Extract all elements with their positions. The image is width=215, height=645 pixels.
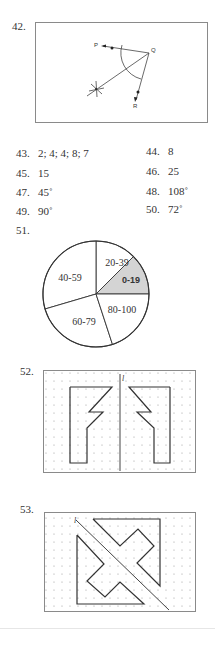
problem-42-number: 42. (12, 20, 26, 32)
page-edge (0, 628, 215, 629)
label-p: P (94, 42, 98, 48)
problem-42-figure: P Q R (35, 22, 208, 123)
answer-43: 43.2; 4; 4; 8; 7 (16, 147, 89, 159)
reflection-figure-53 (45, 513, 197, 613)
slice-60-79 (45, 294, 113, 347)
problem-51-number: 51. (16, 224, 30, 236)
pie-label-40-59: 40-59 (58, 272, 81, 283)
reflection-figure-52 (44, 371, 197, 474)
pie-label-0-19: 0-19 (122, 275, 140, 285)
answer-47: 47.45˚ (16, 186, 53, 198)
pie-label-20-39: 20-39 (105, 257, 128, 268)
slice-40-59 (43, 241, 96, 309)
slice-0-19 (96, 257, 149, 295)
answer-46: 46.25 (146, 165, 179, 177)
answer-50: 50.72˚ (146, 203, 183, 215)
slice-80-100 (96, 294, 149, 345)
pie-label-60-79: 60-79 (72, 316, 95, 327)
problem-52-number: 52. (20, 365, 34, 377)
line-label-52: l (122, 374, 124, 383)
problem-52-figure: l (43, 370, 196, 473)
slice-20-39 (96, 241, 134, 294)
answer-45: 45.15 (16, 167, 49, 179)
answer-49: 49.90˚ (16, 205, 53, 217)
line-label-53: l (74, 516, 76, 525)
problem-53-figure: l (44, 512, 196, 612)
answer-44: 44.8 (146, 145, 174, 157)
answer-48: 48.108˚ (146, 185, 188, 197)
problem-53-number: 53. (20, 503, 34, 515)
angle-bisector-construction (36, 23, 209, 124)
label-q: Q (151, 47, 156, 53)
pie-label-80-100: 80-100 (108, 304, 136, 315)
label-r: R (133, 103, 137, 109)
